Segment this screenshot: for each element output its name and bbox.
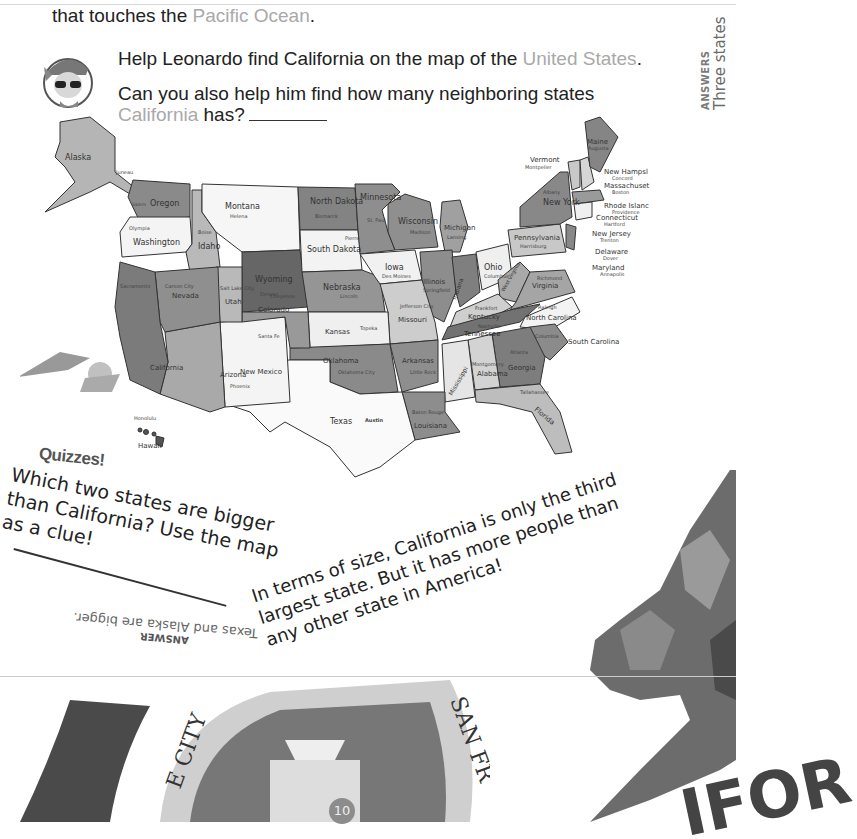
svg-text:Madison: Madison	[410, 229, 431, 235]
svg-text:Lansing: Lansing	[447, 234, 466, 241]
svg-text:Alabama: Alabama	[477, 370, 508, 378]
svg-text:Montpelier: Montpelier	[525, 164, 553, 171]
svg-text:Annapolis: Annapolis	[600, 271, 625, 278]
svg-text:Nebraska: Nebraska	[323, 283, 361, 292]
quiz-answer-upside-down: ANSWER Texas and Alaska are bigger.	[54, 608, 275, 653]
svg-text:Albany: Albany	[543, 189, 560, 196]
svg-text:Arkansas: Arkansas	[402, 357, 434, 365]
state-north-dakota	[298, 187, 358, 230]
svg-text:Richmond: Richmond	[537, 275, 562, 281]
svg-text:South Dakota: South Dakota	[307, 245, 361, 254]
svg-text:Phoenix: Phoenix	[230, 383, 250, 389]
svg-text:Atlanta: Atlanta	[510, 349, 528, 355]
svg-text:Concord: Concord	[612, 175, 633, 181]
state-new-mexico	[220, 317, 290, 407]
svg-text:Washington: Washington	[133, 238, 180, 247]
side-answer-label: ANSWERS	[700, 16, 711, 110]
svg-text:Oklahoma City: Oklahoma City	[338, 369, 375, 376]
svg-text:Denver: Denver	[260, 291, 279, 297]
svg-text:Hartford: Hartford	[604, 221, 625, 227]
svg-text:South Carolina: South Carolina	[568, 338, 619, 346]
svg-text:Utah: Utah	[225, 298, 242, 306]
svg-text:Louisiana: Louisiana	[414, 422, 447, 430]
svg-text:Dover: Dover	[603, 255, 619, 261]
svg-text:Salem: Salem	[132, 202, 146, 207]
svg-text:Arizona: Arizona	[220, 371, 246, 379]
svg-text:New York: New York	[543, 198, 580, 207]
svg-text:Trenton: Trenton	[599, 237, 619, 243]
united-states-term: United States	[523, 48, 637, 69]
svg-text:Oregon: Oregon	[150, 199, 179, 208]
svg-text:Springfield: Springfield	[423, 287, 450, 294]
svg-text:Augusta: Augusta	[588, 145, 609, 152]
svg-text:Raleigh: Raleigh	[538, 304, 557, 311]
help-prompt: Help Leonardo find California on the map…	[118, 48, 642, 70]
svg-text:Juneau: Juneau	[115, 169, 133, 175]
svg-text:Frankfort: Frankfort	[475, 305, 498, 311]
svg-text:Georgia: Georgia	[508, 364, 535, 372]
svg-text:Jefferson City: Jefferson City	[399, 303, 433, 310]
state-vermont	[568, 160, 580, 190]
svg-text:North Dakota: North Dakota	[310, 197, 363, 206]
side-answer-text: Three states	[711, 16, 729, 110]
side-answer: ANSWERS Three states	[700, 0, 736, 130]
state-new-jersey	[566, 224, 576, 250]
intro-text: that touches the Pacific Ocean.	[52, 5, 315, 27]
svg-text:California: California	[150, 364, 183, 372]
svg-text:Tennessee: Tennessee	[463, 330, 500, 338]
svg-text:Illinois: Illinois	[423, 278, 446, 286]
svg-text:Nashville: Nashville	[478, 323, 501, 329]
state-washington-shape	[120, 217, 192, 257]
svg-text:Carson City: Carson City	[165, 283, 194, 290]
svg-text:Pennsylvania: Pennsylvania	[514, 234, 560, 242]
svg-text:Vermont: Vermont	[530, 156, 560, 164]
svg-text:Pierre: Pierre	[345, 235, 359, 241]
leonardo-avatar-icon	[38, 45, 96, 113]
svg-text:Virginia: Virginia	[532, 282, 558, 290]
svg-text:Montana: Montana	[225, 202, 260, 211]
svg-text:Minnesota: Minnesota	[360, 193, 401, 202]
svg-text:Austin: Austin	[365, 417, 384, 423]
svg-text:Bismarck: Bismarck	[315, 213, 338, 219]
svg-text:Olympia: Olympia	[129, 225, 150, 232]
svg-text:Michigan: Michigan	[444, 224, 475, 232]
svg-text:Santa Fe: Santa Fe	[258, 333, 280, 339]
us-map: Alaska Juneau Oregon Salem Washington Ol…	[20, 112, 720, 482]
svg-text:Missouri: Missouri	[398, 316, 427, 324]
svg-text:Harrisburg: Harrisburg	[520, 243, 546, 250]
svg-text:Helena: Helena	[230, 213, 248, 219]
bottom-divider	[0, 676, 736, 677]
alaska-label: Alaska	[65, 153, 91, 162]
page-number-badge: 10	[329, 798, 355, 824]
svg-text:Tallahassee: Tallahassee	[519, 389, 549, 395]
svg-text:Oklahoma: Oklahoma	[323, 357, 359, 365]
svg-text:Topeka: Topeka	[359, 325, 377, 332]
svg-text:Idaho: Idaho	[198, 242, 220, 251]
svg-text:Honolulu: Honolulu	[134, 415, 156, 421]
svg-text:Des Moines: Des Moines	[382, 273, 411, 279]
svg-text:Wisconsin: Wisconsin	[398, 217, 438, 226]
svg-text:Columbia: Columbia	[535, 333, 559, 339]
pacific-ocean-term: Pacific Ocean	[193, 5, 310, 26]
svg-text:St. Paul: St. Paul	[367, 217, 386, 223]
intro-prefix: that touches the	[52, 5, 193, 26]
svg-text:Kansas: Kansas	[325, 328, 350, 336]
state-alaska	[45, 117, 140, 212]
svg-text:Sacramento: Sacramento	[120, 283, 150, 289]
svg-text:Montgomery: Montgomery	[472, 361, 504, 368]
svg-text:Texas: Texas	[329, 417, 352, 426]
neighbor-question: Can you also help him find how many neig…	[118, 83, 594, 105]
svg-text:Lincoln: Lincoln	[340, 293, 358, 299]
flying-character-icon	[20, 352, 120, 392]
svg-text:Little Rock: Little Rock	[410, 369, 436, 375]
california-bear-icon	[580, 470, 736, 822]
dark-stripe	[20, 700, 150, 822]
svg-text:North Carolina: North Carolina	[526, 314, 577, 322]
svg-text:Salt Lake City: Salt Lake City	[220, 285, 254, 292]
svg-text:Kentucky: Kentucky	[468, 313, 500, 321]
san-francisco-seal-icon: E CITY SAN FR	[150, 680, 490, 822]
svg-text:Nevada: Nevada	[172, 292, 199, 300]
svg-text:Ohio: Ohio	[484, 263, 503, 272]
svg-text:Wyoming: Wyoming	[255, 275, 293, 284]
svg-text:Hawaii: Hawaii	[138, 442, 162, 450]
